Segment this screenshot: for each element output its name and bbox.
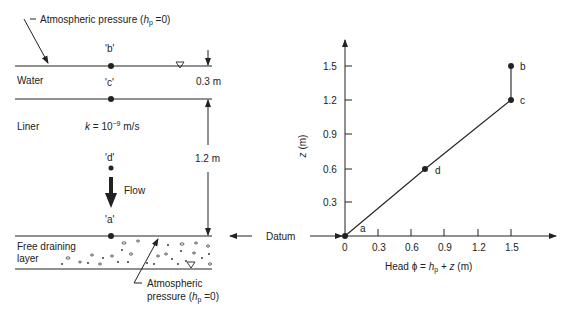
x-tick-label: 1.2 <box>472 242 486 253</box>
y-tick-label: 0.9 <box>323 129 337 140</box>
data-point-b <box>508 63 514 69</box>
dim-water-label: 0.3 m <box>196 76 221 87</box>
free-draining-label-1: Free draining <box>17 241 76 252</box>
x-tick-label: 0.6 <box>405 242 419 253</box>
y-ticks <box>345 66 352 202</box>
y-tick-label: 1.2 <box>323 95 337 106</box>
bottom-annotation-1: Atmospheric <box>147 278 203 289</box>
permeability-label: k = 10−9 m/s <box>85 120 139 132</box>
head-profile-line <box>345 66 511 236</box>
leader-arrow-top <box>24 19 48 63</box>
flow-arrow-icon <box>105 177 117 208</box>
data-label-b: b <box>520 61 526 72</box>
head-chart: 0.3 0.6 0.9 1.2 1.5 0 0.3 0.6 0.9 1.2 1.… <box>297 40 556 274</box>
point-c <box>108 96 114 102</box>
x-tick-label: 1.5 <box>505 242 519 253</box>
data-label-a: a <box>360 223 366 234</box>
y-tick-label: 1.5 <box>323 61 337 72</box>
water-label: Water <box>17 75 44 86</box>
x-tick-label: 0 <box>342 242 348 253</box>
liner-label: Liner <box>17 121 40 132</box>
point-d-label: 'd' <box>105 152 114 163</box>
soil-profile: Atmospheric pressure (hp =0) 'b' 'c' 'd'… <box>15 14 342 304</box>
point-d <box>109 166 114 171</box>
gravel-texture <box>66 240 212 265</box>
x-tick-label: 0.9 <box>438 242 452 253</box>
bottom-annotation-2: pressure (hp =0) <box>147 291 219 304</box>
data-label-c: c <box>520 95 525 106</box>
data-point-c <box>508 97 514 103</box>
x-ticks <box>378 229 511 236</box>
top-annotation: Atmospheric pressure (hp =0) <box>40 14 170 27</box>
diagram-canvas: Atmospheric pressure (hp =0) 'b' 'c' 'd'… <box>0 0 573 319</box>
y-tick-label: 0.3 <box>323 197 337 208</box>
point-b-label: 'b' <box>105 43 114 54</box>
data-label-d: d <box>435 165 441 176</box>
y-tick-label: 0.6 <box>323 164 337 175</box>
water-table-symbol-top <box>176 62 184 68</box>
free-draining-label-2: layer <box>17 253 39 264</box>
dim-liner-label: 1.2 m <box>195 153 220 164</box>
water-table-symbol-bottom <box>187 262 195 268</box>
y-axis-label: z (m) <box>297 135 308 159</box>
point-a <box>108 233 114 239</box>
data-point-d <box>422 166 428 172</box>
x-axis-label: Head ϕ = hp + z (m) <box>385 261 472 274</box>
flow-label: Flow <box>124 185 146 196</box>
point-a-label: 'a' <box>105 214 114 225</box>
point-b <box>108 63 114 69</box>
x-tick-label: 0.3 <box>372 242 386 253</box>
data-point-a <box>342 233 348 239</box>
datum-label: Datum <box>266 231 295 242</box>
leader-arrow-bottom <box>134 239 158 283</box>
point-c-label: 'c' <box>105 77 114 88</box>
